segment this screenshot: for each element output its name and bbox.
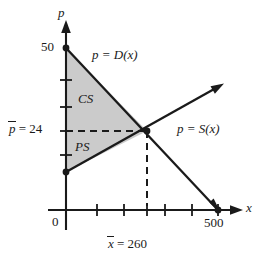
x-axis-arrowhead <box>230 205 243 215</box>
producer-surplus-label: PS <box>75 140 89 153</box>
equilibrium-price-label: p = 24 <box>9 122 42 135</box>
demand-y-intercept-point <box>63 45 70 52</box>
origin-label: 0 <box>52 215 59 228</box>
equilibrium-quantity-label: x = 260 <box>108 237 147 250</box>
x-tick-label-500: 500 <box>204 216 224 229</box>
y-axis-label: p <box>58 6 65 19</box>
y-axis-arrowhead <box>61 20 71 33</box>
consumer-surplus-label: CS <box>78 92 93 105</box>
supply-y-intercept-point <box>63 169 70 176</box>
x-axis-label: x <box>246 201 252 214</box>
supply-curve-arrowhead <box>211 84 225 94</box>
demand-curve-label: p = D(x) <box>92 48 138 61</box>
equilibrium-point <box>144 128 151 135</box>
equilibrium-price-symbol: p <box>9 122 16 135</box>
demand-x-intercept-point <box>215 207 222 214</box>
equilibrium-quantity-value: = 260 <box>114 236 147 251</box>
y-tick-label-50: 50 <box>41 40 54 53</box>
supply-demand-surplus-figure: p x 50 0 p = 24 x = 260 500 p = D(x) p =… <box>0 0 263 265</box>
equilibrium-price-value: = 24 <box>16 121 43 136</box>
supply-curve-label: p = S(x) <box>177 122 220 135</box>
equilibrium-quantity-symbol: x <box>108 237 114 250</box>
